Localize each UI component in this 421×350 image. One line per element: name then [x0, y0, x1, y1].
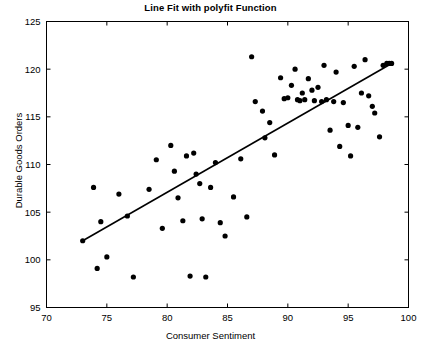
data-point: [168, 143, 173, 148]
x-tick-label: 95: [343, 312, 354, 323]
data-point: [306, 76, 311, 81]
data-point: [191, 150, 196, 155]
data-point: [197, 181, 202, 186]
data-point: [154, 157, 159, 162]
data-point: [300, 90, 305, 95]
data-point: [146, 187, 151, 192]
data-point: [244, 214, 249, 219]
data-point: [327, 128, 332, 133]
data-point: [337, 144, 342, 149]
data-point: [253, 99, 258, 104]
x-tick-label: 85: [222, 312, 233, 323]
data-point: [362, 57, 367, 62]
data-point: [352, 64, 357, 69]
y-tick-label: 105: [25, 207, 41, 218]
y-tick-label: 120: [25, 64, 41, 75]
y-axis-label: Durable Goods Orders: [13, 91, 24, 231]
data-point: [272, 152, 277, 157]
data-point: [309, 88, 314, 93]
data-point: [116, 191, 121, 196]
data-point: [289, 83, 294, 88]
data-point: [312, 98, 317, 103]
data-point: [95, 266, 100, 271]
data-point: [292, 67, 297, 72]
data-point: [238, 156, 243, 161]
data-point: [172, 169, 177, 174]
data-point: [218, 220, 223, 225]
y-tick-label: 125: [25, 16, 41, 27]
scatter-plot: 70758085909510095100105110115120125: [0, 0, 421, 350]
x-tick-label: 80: [162, 312, 173, 323]
data-point: [302, 97, 307, 102]
x-tick-label: 75: [102, 312, 113, 323]
data-point: [267, 120, 272, 125]
data-point: [91, 185, 96, 190]
data-point: [366, 93, 371, 98]
data-point: [321, 63, 326, 68]
data-point: [285, 95, 290, 100]
data-point: [187, 273, 192, 278]
data-point: [278, 75, 283, 80]
data-point: [355, 125, 360, 130]
y-tick-label: 100: [25, 254, 41, 265]
x-axis-label: Consumer Sentiment: [0, 330, 421, 341]
chart-figure: Line Fit with polyfit Function 707580859…: [0, 0, 421, 350]
data-point: [131, 274, 136, 279]
data-point: [249, 54, 254, 59]
data-point: [331, 99, 336, 104]
data-point: [175, 195, 180, 200]
data-point: [297, 98, 302, 103]
y-tick-label: 95: [30, 302, 41, 313]
data-point: [372, 110, 377, 115]
data-point: [160, 226, 165, 231]
data-point: [200, 216, 205, 221]
data-point: [359, 90, 364, 95]
data-point: [334, 69, 339, 74]
data-point: [260, 109, 265, 114]
data-point: [346, 123, 351, 128]
x-tick-label: 70: [41, 312, 52, 323]
data-point: [315, 85, 320, 90]
x-tick-label: 90: [283, 312, 294, 323]
data-point: [104, 254, 109, 259]
data-point: [222, 233, 227, 238]
data-point: [377, 134, 382, 139]
data-point: [180, 218, 185, 223]
data-point: [348, 153, 353, 158]
data-point: [203, 274, 208, 279]
data-point: [184, 153, 189, 158]
data-point: [341, 100, 346, 105]
y-tick-label: 115: [25, 111, 40, 122]
data-point: [98, 219, 103, 224]
x-tick-label: 100: [401, 312, 417, 323]
data-point: [208, 185, 213, 190]
y-tick-label: 110: [25, 159, 40, 170]
data-point: [231, 194, 236, 199]
data-point: [370, 104, 375, 109]
